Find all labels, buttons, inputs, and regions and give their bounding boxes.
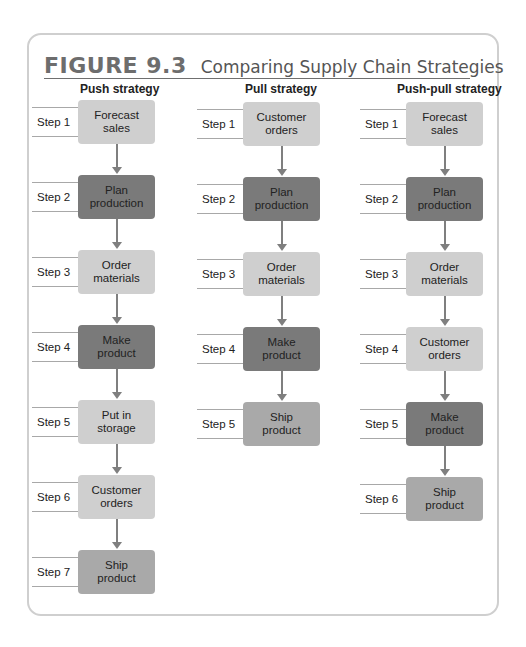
down-arrow-icon: [116, 219, 118, 247]
flow-step: Step 3Order materials: [197, 252, 322, 296]
column-heading-pull: Pull strategy: [245, 82, 317, 96]
figure-title-row: FIGURE 9.3 Comparing Supply Chain Strate…: [44, 53, 504, 78]
column-heading-push: Push strategy: [80, 82, 159, 96]
step-box: Ship product: [78, 550, 155, 594]
down-arrow-icon: [116, 444, 118, 472]
flow-step: Step 1Forecast sales: [360, 102, 485, 146]
flow-step: Step 5Put in storage: [32, 400, 157, 444]
step-box: Put in storage: [78, 400, 155, 444]
flow-step: Step 1Forecast sales: [32, 100, 157, 144]
step-box: Make product: [243, 327, 320, 371]
step-box: Customer orders: [406, 327, 483, 371]
step-box: Forecast sales: [406, 102, 483, 146]
flow-step: Step 2Plan production: [360, 177, 485, 221]
step-box: Plan production: [78, 175, 155, 219]
flow-step: Step 4Make product: [197, 327, 322, 371]
down-arrow-icon: [444, 221, 446, 249]
flow-step: Step 2Plan production: [197, 177, 322, 221]
down-arrow-icon: [281, 146, 283, 174]
flow-step: Step 6Ship product: [360, 477, 485, 521]
flow-step: Step 7Ship product: [32, 550, 157, 594]
step-box: Ship product: [243, 402, 320, 446]
flow-step: Step 3Order materials: [360, 252, 485, 296]
flow-step: Step 6Customer orders: [32, 475, 157, 519]
step-box: Customer orders: [243, 102, 320, 146]
down-arrow-icon: [116, 369, 118, 397]
step-box: Make product: [406, 402, 483, 446]
step-box: Customer orders: [78, 475, 155, 519]
flow-step: Step 3Order materials: [32, 250, 157, 294]
flow-step: Step 4Customer orders: [360, 327, 485, 371]
step-box: Forecast sales: [78, 100, 155, 144]
down-arrow-icon: [116, 144, 118, 172]
step-box: Plan production: [243, 177, 320, 221]
flow-step: Step 5Make product: [360, 402, 485, 446]
figure-number: FIGURE 9.3: [44, 53, 187, 78]
figure-title: Comparing Supply Chain Strategies: [201, 57, 504, 77]
title-divider: [44, 78, 470, 79]
down-arrow-icon: [281, 371, 283, 399]
flow-step: Step 4Make product: [32, 325, 157, 369]
column-heading-push-pull: Push-pull strategy: [397, 82, 502, 96]
step-box: Make product: [78, 325, 155, 369]
down-arrow-icon: [281, 296, 283, 324]
step-box: Order materials: [406, 252, 483, 296]
down-arrow-icon: [116, 519, 118, 547]
flow-step: Step 2Plan production: [32, 175, 157, 219]
down-arrow-icon: [116, 294, 118, 322]
step-box: Ship product: [406, 477, 483, 521]
flow-step: Step 1Customer orders: [197, 102, 322, 146]
down-arrow-icon: [281, 221, 283, 249]
step-box: Order materials: [243, 252, 320, 296]
step-box: Order materials: [78, 250, 155, 294]
step-box: Plan production: [406, 177, 483, 221]
flow-step: Step 5Ship product: [197, 402, 322, 446]
down-arrow-icon: [444, 296, 446, 324]
down-arrow-icon: [444, 146, 446, 174]
down-arrow-icon: [444, 446, 446, 474]
down-arrow-icon: [444, 371, 446, 399]
